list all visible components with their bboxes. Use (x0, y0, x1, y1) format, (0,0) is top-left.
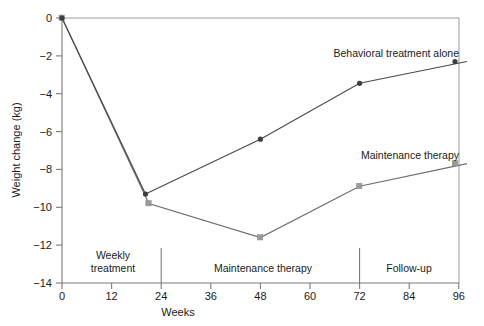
phase-label-weekly-line2: treatment (91, 262, 135, 274)
y-tick-label: −14 (33, 277, 52, 289)
x-tick-labels: 0 12 24 36 48 60 72 84 96 (59, 290, 465, 302)
series-line-behavioral-treatment-alone (62, 18, 467, 194)
x-tick-label: 24 (155, 290, 167, 302)
y-tick-label: 0 (46, 12, 52, 24)
x-tick-label: 60 (304, 290, 316, 302)
y-tick-marks (56, 18, 62, 283)
y-axis-title: Weight change (kg) (10, 102, 22, 197)
y-tick-label: −2 (39, 50, 52, 62)
x-tick-label: 72 (353, 290, 365, 302)
series-annotation-behavioral-treatment-alone: Behavioral treatment alone (334, 47, 460, 59)
x-tick-label: 96 (453, 290, 465, 302)
y-tick-label: −6 (39, 126, 52, 138)
x-tick-label: 48 (254, 290, 266, 302)
y-tick-label: −4 (39, 88, 52, 100)
weight-change-chart: 0 −2 −4 −6 −8 −10 −12 −14 0 12 24 36 (0, 0, 484, 326)
chart-canvas: 0 −2 −4 −6 −8 −10 −12 −14 0 12 24 36 (0, 0, 484, 326)
x-tick-label: 84 (403, 290, 415, 302)
x-tick-label: 36 (205, 290, 217, 302)
y-tick-label: −8 (39, 163, 52, 175)
phase-label-weekly-line1: Weekly (96, 249, 131, 261)
x-tick-marks (62, 283, 459, 289)
phase-label-maintenance: Maintenance therapy (214, 262, 313, 274)
series-markers-behavioral-treatment-alone (59, 15, 457, 196)
y-tick-labels: 0 −2 −4 −6 −8 −10 −12 −14 (33, 12, 52, 289)
x-tick-label: 12 (105, 290, 117, 302)
series-annotation-maintenance-therapy: Maintenance therapy (361, 149, 460, 161)
y-tick-label: −10 (33, 201, 52, 213)
y-tick-label: −12 (33, 239, 52, 251)
x-axis-title: Weeks (161, 306, 195, 318)
phase-label-followup: Follow-up (386, 262, 432, 274)
x-tick-label: 0 (59, 290, 65, 302)
